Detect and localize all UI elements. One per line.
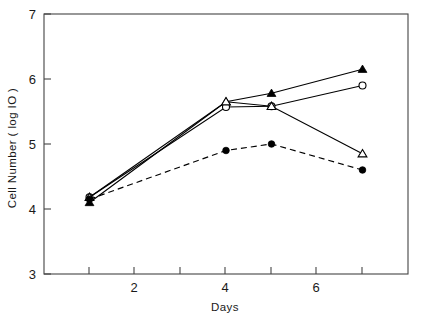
y-tick-label-3: 3 — [29, 267, 36, 282]
x-tick-label-6: 6 — [312, 280, 319, 295]
y-tick-label-4: 4 — [29, 202, 36, 217]
x-axis-ticks — [89, 267, 362, 274]
x-axis-title: Days — [211, 301, 239, 313]
data-point-filled-triangle — [358, 65, 367, 72]
data-point-filled-circle — [268, 141, 275, 148]
x-tick-label-2: 2 — [130, 280, 137, 295]
series-filled-triangle-series — [85, 65, 367, 206]
x-axis-tick-labels: 2 4 6 — [130, 280, 319, 295]
y-tick-label-7: 7 — [29, 7, 36, 22]
plot-frame — [44, 14, 408, 274]
series-line-filled-triangle-series — [90, 69, 363, 202]
x-tick-label-4: 4 — [221, 280, 228, 295]
data-point-filled-circle — [86, 196, 93, 203]
y-axis-title: Cell Number ( log IO ) — [6, 88, 18, 209]
line-chart: 7 6 5 4 3 2 4 6 Days Cell Number ( log I… — [0, 0, 430, 319]
y-axis-tick-labels: 7 6 5 4 3 — [29, 7, 36, 282]
figure-container: 7 6 5 4 3 2 4 6 Days Cell Number ( log I… — [0, 0, 430, 319]
data-series-layer — [85, 65, 367, 206]
data-point-open-triangle — [358, 150, 367, 157]
y-axis-ticks — [44, 14, 51, 274]
data-point-filled-circle — [359, 167, 366, 174]
data-point-open-circle — [359, 82, 366, 89]
y-tick-label-6: 6 — [29, 72, 36, 87]
data-point-filled-circle — [223, 147, 230, 154]
y-tick-label-5: 5 — [29, 137, 36, 152]
